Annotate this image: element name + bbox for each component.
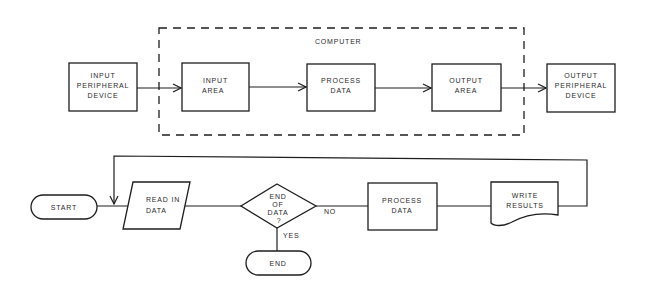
yes-label: YES bbox=[283, 232, 299, 239]
process-data-step: PROCESS DATA bbox=[368, 183, 437, 230]
svg-text:OUTPUT: OUTPUT bbox=[564, 72, 598, 79]
end-of-data-decision: END OF DATA ? bbox=[241, 184, 316, 228]
svg-text:END: END bbox=[269, 260, 286, 267]
read-in-data-io: READ IN DATA bbox=[123, 182, 190, 229]
svg-text:END: END bbox=[269, 193, 286, 200]
write-results-document: WRITE RESULTS bbox=[491, 182, 558, 226]
svg-text:INPUT: INPUT bbox=[91, 72, 116, 79]
svg-text:DATA: DATA bbox=[268, 209, 289, 216]
svg-text:DEVICE: DEVICE bbox=[88, 92, 119, 99]
end-terminal: END bbox=[246, 251, 311, 275]
diagram-canvas: COMPUTER INPUT PERIPHERAL DEVICE INPUT A… bbox=[0, 0, 648, 293]
svg-text:AREA: AREA bbox=[455, 87, 477, 94]
svg-text:OUTPUT: OUTPUT bbox=[449, 77, 483, 84]
svg-text:PROCESS: PROCESS bbox=[382, 197, 422, 204]
program-flowchart: START READ IN DATA END OF DATA ? NO YES … bbox=[31, 156, 587, 275]
svg-text:WRITE: WRITE bbox=[512, 192, 539, 199]
svg-text:DEVICE: DEVICE bbox=[566, 92, 597, 99]
computer-label: COMPUTER bbox=[315, 38, 361, 45]
input-peripheral-device: INPUT PERIPHERAL DEVICE bbox=[69, 63, 137, 111]
svg-text:DATA: DATA bbox=[392, 207, 413, 214]
computer-system-diagram: COMPUTER INPUT PERIPHERAL DEVICE INPUT A… bbox=[69, 28, 615, 135]
svg-text:PROCESS: PROCESS bbox=[321, 77, 361, 84]
svg-text:PERIPHERAL: PERIPHERAL bbox=[77, 82, 129, 89]
svg-text:START: START bbox=[51, 204, 77, 211]
no-label: NO bbox=[324, 208, 336, 215]
process-data-box: PROCESS DATA bbox=[307, 64, 375, 111]
svg-text:RESULTS: RESULTS bbox=[506, 202, 543, 209]
start-terminal: START bbox=[31, 195, 97, 219]
svg-text:OF: OF bbox=[272, 201, 283, 208]
output-area: OUTPUT AREA bbox=[432, 64, 501, 111]
input-area: INPUT AREA bbox=[182, 63, 249, 111]
svg-text:?: ? bbox=[277, 217, 282, 224]
svg-text:AREA: AREA bbox=[202, 87, 224, 94]
svg-text:READ IN: READ IN bbox=[146, 196, 180, 203]
svg-text:INPUT: INPUT bbox=[203, 77, 228, 84]
output-peripheral-device: OUTPUT PERIPHERAL DEVICE bbox=[547, 64, 615, 112]
svg-text:PERIPHERAL: PERIPHERAL bbox=[555, 82, 607, 89]
svg-text:DATA: DATA bbox=[146, 207, 167, 214]
svg-text:DATA: DATA bbox=[331, 87, 352, 94]
